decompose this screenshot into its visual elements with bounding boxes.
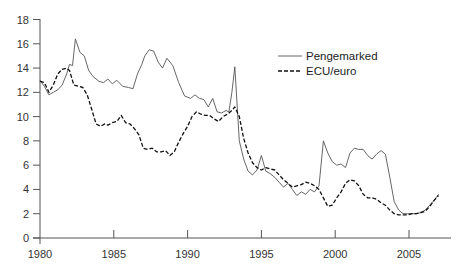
legend-item-ecu-euro: ECU/euro xyxy=(278,65,357,77)
x-tick-label: 1995 xyxy=(249,248,273,260)
x-ticks: 198019851990199520002005 xyxy=(28,230,421,260)
y-tick-label: 8 xyxy=(23,135,29,147)
y-tick-label: 12 xyxy=(17,86,29,98)
y-tick-label: 18 xyxy=(17,14,29,26)
legend-item-pengemarked: Pengemarked xyxy=(278,50,378,62)
legend-label-ecu-euro: ECU/euro xyxy=(306,65,357,77)
legend-label-pengemarked: Pengemarked xyxy=(306,50,378,62)
y-axis: 024681012141618 xyxy=(17,14,40,245)
y-tick-label: 4 xyxy=(23,183,29,195)
y-tick-label: 6 xyxy=(23,159,29,171)
series-line-pengemarked xyxy=(40,39,439,214)
y-tick-label: 10 xyxy=(17,111,29,123)
x-tick-label: 1980 xyxy=(28,248,52,260)
x-tick-label: 2005 xyxy=(397,248,421,260)
x-tick-label: 1990 xyxy=(175,248,199,260)
y-tick-label: 2 xyxy=(23,208,29,220)
plot-area xyxy=(40,39,439,215)
y-tick-label: 14 xyxy=(17,62,29,74)
y-ticks: 024681012141618 xyxy=(17,14,40,245)
y-tick-label: 0 xyxy=(23,232,29,244)
x-axis: 198019851990199520002005 xyxy=(28,230,451,260)
x-tick-label: 1985 xyxy=(102,248,126,260)
line-chart: 024681012141618 198019851990199520002005… xyxy=(0,0,459,276)
y-tick-label: 16 xyxy=(17,38,29,50)
legend: Pengemarked ECU/euro xyxy=(278,50,378,77)
x-tick-label: 2000 xyxy=(323,248,347,260)
